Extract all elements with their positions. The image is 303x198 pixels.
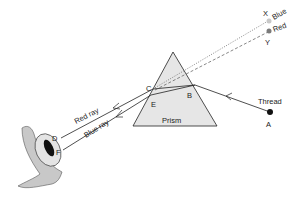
red-image-point [267,29,272,34]
label-b: B [187,91,192,100]
label-f: F [56,148,61,157]
blue-image-point [267,19,272,24]
label-y: Y [265,38,270,47]
label-prism: Prism [162,116,181,125]
red-ray [61,89,153,138]
label-d: D [52,134,58,143]
label-thread: Thread [258,97,282,106]
incident-arrow-icon [226,93,232,100]
label-e: E [151,100,156,109]
label-red: Red [272,21,288,34]
virtual-ray-blue [153,21,268,89]
thread-point [267,109,273,115]
label-x: X [263,9,268,18]
label-c: C [146,84,152,93]
prism-diagram: Prism Thread A B C E D F X Y Blue Red Re… [0,0,303,198]
label-a: A [266,120,271,129]
label-blue: Blue [271,6,289,21]
eye [18,126,66,187]
